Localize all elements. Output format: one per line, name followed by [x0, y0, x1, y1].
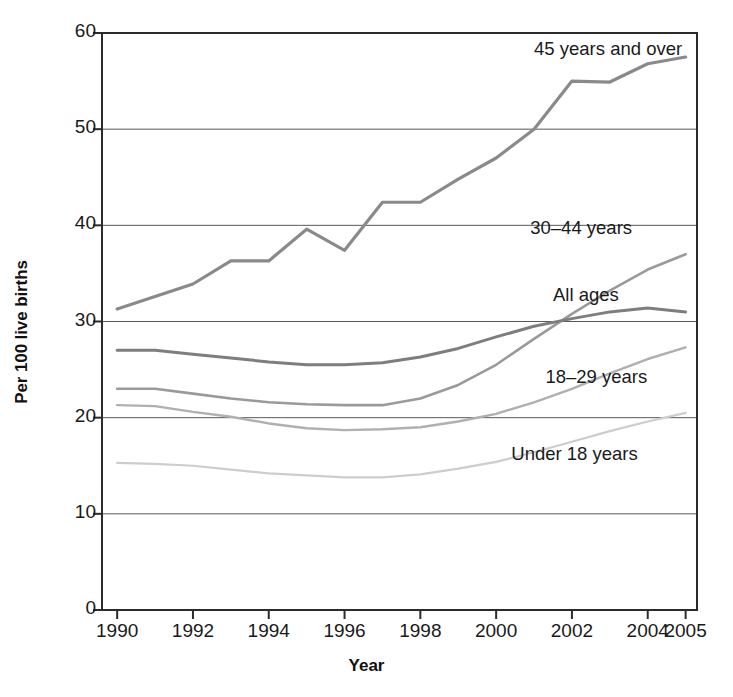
x-tick-label: 1990: [77, 620, 157, 642]
x-tick-label: 1994: [229, 620, 309, 642]
x-tick-label: 1996: [305, 620, 385, 642]
series-label: 18–29 years: [545, 366, 647, 388]
y-tick-label: 10: [36, 501, 96, 523]
x-tick-label: 2005: [646, 620, 726, 642]
x-tick-label: 1992: [153, 620, 233, 642]
series-label: 45 years and over: [534, 38, 682, 60]
series-label: Under 18 years: [511, 443, 637, 465]
chart-container: Per 100 live births Year 010203040506019…: [0, 0, 733, 697]
plot-area: [0, 0, 733, 697]
y-tick-label: 40: [36, 212, 96, 234]
series-label: 30–44 years: [530, 217, 632, 239]
x-tick-label: 1998: [380, 620, 460, 642]
series-line: [117, 57, 685, 309]
y-tick-label: 20: [36, 405, 96, 427]
series-label: All ages: [553, 284, 619, 306]
y-tick-label: 50: [36, 116, 96, 138]
y-tick-label: 30: [36, 309, 96, 331]
x-tick-label: 2002: [532, 620, 612, 642]
x-tick-label: 2000: [456, 620, 536, 642]
y-tick-label: 60: [36, 20, 96, 42]
series-line: [117, 308, 685, 365]
y-tick-label: 0: [36, 597, 96, 619]
